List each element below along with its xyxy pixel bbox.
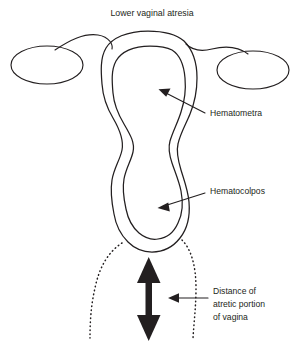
diagram-canvas: Lower vaginal atresia Hematometra — [0, 0, 298, 346]
left-ovary — [11, 46, 83, 84]
vertical-double-headed-measure-arrow — [137, 257, 161, 341]
hematometra-label: Hematometra — [210, 108, 262, 118]
atretic-distance-arrowhead — [168, 293, 179, 303]
hematocolpos-arrowhead — [158, 203, 170, 212]
hematocolpos-label: Hematocolpos — [210, 186, 265, 196]
left-atretic-vagina-outline — [90, 243, 122, 338]
hematocolpos-annotation: Hematocolpos — [158, 186, 265, 211]
page-title: Lower vaginal atresia — [110, 8, 193, 18]
figure-lower-vaginal-atresia: Lower vaginal atresia Hematometra — [0, 0, 298, 346]
atretic-distance-annotation: Distance of atretic portion of vagina — [168, 286, 265, 322]
atretic-distance-label-line2: atretic portion — [213, 299, 265, 309]
uterus-inner-cavity — [112, 46, 185, 239]
right-ovary — [217, 51, 289, 89]
hematometra-arrowhead — [159, 89, 171, 97]
atretic-distance-label-line3: of vagina — [213, 312, 248, 322]
hematometra-annotation: Hematometra — [159, 89, 263, 119]
atretic-distance-label-line1: Distance of — [213, 286, 257, 296]
hematocolpos-leader-line — [164, 193, 205, 206]
right-atretic-vagina-outline — [182, 240, 196, 338]
